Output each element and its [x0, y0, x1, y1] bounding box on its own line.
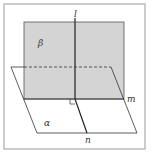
label-m: m: [127, 94, 136, 104]
label-l: l: [74, 9, 77, 19]
label-beta: β: [37, 38, 43, 48]
label-n: n: [85, 135, 91, 145]
right-angle-mark: [70, 99, 75, 104]
label-alpha: α: [44, 118, 50, 128]
perpendicular-planes-diagram: l β α m n: [0, 0, 153, 156]
plane-beta: [24, 22, 124, 99]
line-n: [75, 99, 87, 133]
